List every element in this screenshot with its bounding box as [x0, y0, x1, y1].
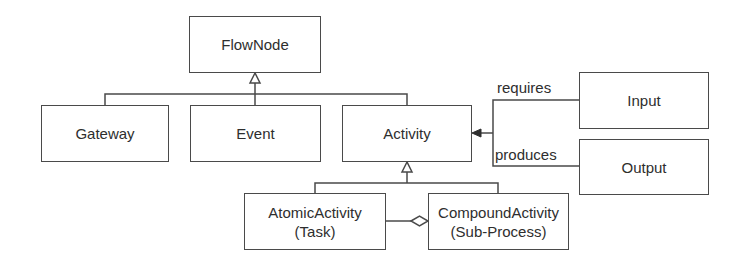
diagram-canvas: FlowNode Gateway Event Activity Input Ou…: [0, 0, 749, 265]
compound-activity-alias: (Sub-Process): [451, 222, 547, 241]
atomic-activity-class-box[interactable]: AtomicActivity (Task): [244, 193, 386, 250]
requires-label: requires: [497, 79, 551, 97]
input-label: Input: [627, 91, 660, 110]
activity-class-box[interactable]: Activity: [342, 105, 472, 162]
activity-label: Activity: [383, 124, 431, 143]
compound-activity-name: CompoundActivity: [438, 203, 559, 222]
aggregation-diamond-icon: [411, 216, 428, 226]
output-label: Output: [621, 158, 666, 177]
atomic-activity-name: AtomicActivity: [268, 203, 361, 222]
input-class-box[interactable]: Input: [579, 72, 709, 129]
atomic-activity-alias: (Task): [295, 222, 336, 241]
generalization-flownode-connector: [105, 83, 407, 105]
gateway-label: Gateway: [75, 124, 134, 143]
association-arrow-icon: [472, 129, 481, 137]
flownode-label: FlowNode: [221, 35, 289, 54]
flownode-class-box[interactable]: FlowNode: [189, 16, 321, 73]
compound-activity-class-box[interactable]: CompoundActivity (Sub-Process): [428, 193, 569, 250]
event-label: Event: [236, 124, 274, 143]
output-class-box[interactable]: Output: [579, 139, 709, 195]
produces-label: produces: [495, 146, 557, 164]
event-class-box[interactable]: Event: [190, 105, 321, 162]
generalization-activity-connector: [315, 172, 498, 193]
generalization-arrow-icon: [402, 162, 412, 172]
generalization-arrow-icon: [250, 73, 260, 83]
gateway-class-box[interactable]: Gateway: [41, 105, 169, 162]
